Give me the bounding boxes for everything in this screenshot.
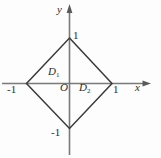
origin-label: O <box>60 82 68 93</box>
region-letter-d2: D <box>79 81 87 93</box>
x-tick-label-negative-one: -1 <box>7 84 16 95</box>
x-axis-arrow-icon <box>143 81 152 87</box>
y-tick-label-positive-one: 1 <box>73 30 79 41</box>
x-axis-label: x <box>135 82 140 93</box>
y-axis-arrow-icon <box>67 4 73 13</box>
y-tick-label-negative-one: -1 <box>51 127 60 138</box>
x-tick-label-positive-one: 1 <box>113 84 119 95</box>
region-label-d1: D1 <box>48 66 59 77</box>
region-subscript-d1: 1 <box>56 71 60 79</box>
figure-canvas <box>0 0 161 158</box>
math-figure: y x 1 -1 -1 1 O D1 D2 <box>0 0 161 158</box>
y-axis-label: y <box>57 4 62 15</box>
region-subscript-d2: 2 <box>87 87 91 95</box>
region-letter-d1: D <box>48 65 56 77</box>
region-label-d2: D2 <box>79 82 90 93</box>
